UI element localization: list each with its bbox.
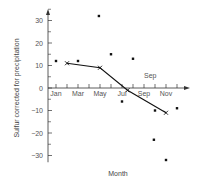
axes — [46, 9, 190, 162]
y-tick-label: −30 — [31, 152, 43, 159]
data-point — [110, 53, 112, 55]
y-tick-label: 20 — [35, 40, 43, 47]
y-tick-label: 0 — [39, 85, 43, 92]
chart: 3020100−10−20−30JanMarMayJulSepNovSepMon… — [0, 0, 202, 187]
y-tick-label: −10 — [31, 107, 43, 114]
x-tick-label: Nov — [160, 90, 173, 97]
y-tick-label: 30 — [35, 17, 43, 24]
x-axis-arrow-icon — [184, 86, 190, 90]
data-point — [153, 139, 155, 141]
data-point — [121, 100, 123, 102]
data-point — [98, 15, 100, 17]
x-axis-title: Month — [108, 170, 128, 177]
annotation-label: Sep — [144, 72, 157, 80]
data-point — [165, 159, 167, 161]
y-tick-label: 10 — [35, 62, 43, 69]
data-point — [132, 58, 134, 60]
data-point — [154, 109, 156, 111]
y-axis-arrow-icon — [46, 9, 50, 15]
x-tick-label: May — [93, 90, 107, 98]
data-point — [77, 60, 79, 62]
x-tick-label: Jul — [118, 90, 127, 97]
data-point — [176, 107, 178, 109]
y-tick-label: −20 — [31, 130, 43, 137]
x-marker-icon — [164, 111, 168, 115]
data-point — [55, 60, 57, 62]
x-tick-label: Jan — [50, 90, 61, 97]
y-axis-title: Sulfur corrected for precipitation — [13, 38, 21, 137]
labels: 3020100−10−20−30JanMarMayJulSepNovSepMon… — [13, 17, 173, 177]
x-tick-label: Sep — [138, 90, 151, 98]
x-tick-label: Mar — [72, 90, 85, 97]
